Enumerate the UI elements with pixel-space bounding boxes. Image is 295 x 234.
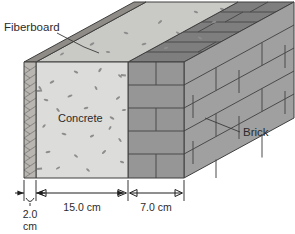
wall-solid — [24, 2, 294, 178]
brace-2cm — [26, 198, 34, 202]
dimension-label-fiberboard-value: 2.0 — [23, 208, 38, 220]
callout-label-brick: Brick — [243, 126, 269, 138]
dimension-label-fiberboard-unit: cm — [23, 220, 37, 232]
dimension-fiberboard-2cm — [15, 193, 45, 206]
dimension-brick-7cm — [130, 190, 183, 197]
dimension-label-concrete: 15.0 cm — [63, 201, 101, 213]
brick-front-face — [128, 62, 184, 178]
fiberboard-front-face — [24, 62, 36, 178]
callout-label-fiberboard: Fiberboard — [4, 21, 60, 33]
extension-lines — [24, 180, 184, 201]
composite-wall-diagram: Fiberboard Brick Concrete — [0, 0, 295, 234]
dimension-set: 2.0 cm 15.0 cm 7.0 cm — [15, 180, 184, 232]
dimension-concrete-15cm — [38, 190, 127, 197]
dimension-label-brick: 7.0 cm — [140, 201, 172, 213]
material-label-concrete: Concrete — [58, 112, 103, 124]
